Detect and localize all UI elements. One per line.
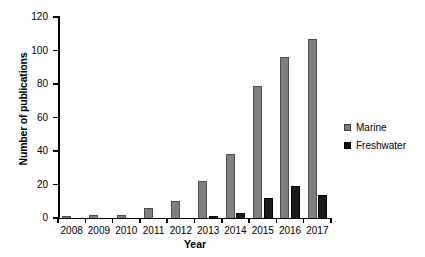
y-tick-label: 20 [18, 180, 48, 190]
bar-marine-2008 [62, 216, 71, 218]
y-tick-label: 40 [18, 146, 48, 156]
x-tick [330, 218, 332, 223]
y-tick-label: 0 [18, 213, 48, 223]
bar-marine-2009 [89, 215, 98, 218]
legend-item-marine: Marine [344, 118, 406, 136]
bar-marine-2017 [308, 39, 317, 218]
y-tick-label: 120 [18, 12, 48, 22]
bar-marine-2014 [226, 154, 235, 218]
bar-freshwater-2016 [291, 186, 300, 218]
legend-label-marine: Marine [356, 122, 387, 133]
bar-freshwater-2017 [318, 195, 327, 218]
x-tick [248, 218, 250, 223]
y-tick-label: 80 [18, 79, 48, 89]
x-tick [85, 218, 87, 223]
plot-area [58, 17, 331, 218]
x-tick [194, 218, 196, 223]
x-tick [57, 218, 59, 223]
chart-legend: Marine Freshwater [344, 118, 406, 154]
bar-freshwater-2014 [236, 213, 245, 218]
bar-freshwater-2015 [264, 198, 273, 218]
bar-marine-2011 [144, 208, 153, 218]
bar-marine-2010 [117, 215, 126, 218]
x-tick [303, 218, 305, 223]
x-tick [166, 218, 168, 223]
legend-label-freshwater: Freshwater [356, 140, 406, 151]
x-tick [139, 218, 141, 223]
bar-marine-2015 [253, 86, 262, 218]
y-tick-label: 100 [18, 46, 48, 56]
x-tick [221, 218, 223, 223]
y-tick-label: 60 [18, 113, 48, 123]
bar-marine-2016 [280, 57, 289, 218]
publications-bar-chart: Number of publications 020406080100120 2… [0, 0, 425, 257]
legend-item-freshwater: Freshwater [344, 136, 406, 154]
bar-marine-2013 [198, 181, 207, 218]
black-square-swatch-icon [344, 142, 351, 149]
x-tick [276, 218, 278, 223]
bar-marine-2012 [171, 201, 180, 218]
x-tick-label: 2017 [297, 225, 337, 236]
x-tick [112, 218, 114, 223]
bar-freshwater-2013 [209, 216, 218, 218]
x-axis-title: Year [0, 238, 390, 250]
gray-square-swatch-icon [344, 124, 351, 131]
